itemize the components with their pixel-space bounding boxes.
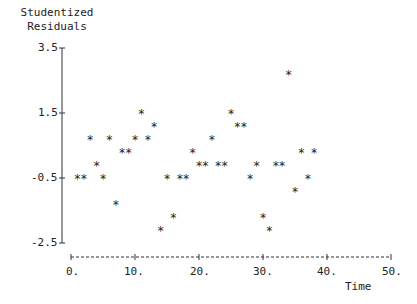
data-point: * xyxy=(298,146,305,160)
data-point: * xyxy=(227,107,234,121)
data-point: * xyxy=(202,159,209,173)
data-point: * xyxy=(240,120,247,134)
data-point: * xyxy=(106,133,113,147)
data-point: * xyxy=(151,120,158,134)
data-point: * xyxy=(87,133,94,147)
data-point: * xyxy=(99,172,106,186)
data-point: * xyxy=(247,172,254,186)
data-point: * xyxy=(125,146,132,160)
data-point: * xyxy=(253,159,260,173)
data-point: * xyxy=(93,159,100,173)
data-point: * xyxy=(112,198,119,212)
plot-area: ************************************** xyxy=(0,0,417,304)
data-point: * xyxy=(170,211,177,225)
data-point: * xyxy=(208,133,215,147)
data-point: * xyxy=(291,185,298,199)
data-point: * xyxy=(279,159,286,173)
data-point: * xyxy=(221,159,228,173)
data-point: * xyxy=(131,133,138,147)
data-point: * xyxy=(189,146,196,160)
data-point: * xyxy=(266,224,273,238)
data-point: * xyxy=(144,133,151,147)
data-points: ************************************** xyxy=(74,68,318,238)
data-point: * xyxy=(311,146,318,160)
data-point: * xyxy=(285,68,292,82)
data-point: * xyxy=(138,107,145,121)
data-point: * xyxy=(80,172,87,186)
data-point: * xyxy=(163,172,170,186)
data-point: * xyxy=(157,224,164,238)
data-point: * xyxy=(304,172,311,186)
data-point: * xyxy=(259,211,266,225)
data-point: * xyxy=(183,172,190,186)
